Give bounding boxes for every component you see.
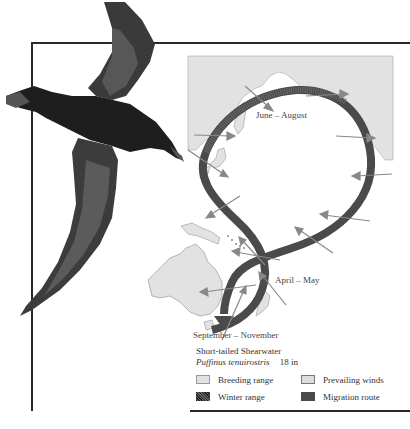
spring-label: April – May [275, 275, 320, 285]
legend-item-route: Migration route [301, 392, 406, 402]
legend-item-breeding: Breeding range [196, 375, 301, 385]
wind-arrow-swatch-icon [301, 375, 315, 384]
legend-item-winter: Winter range [196, 392, 301, 402]
migration-route-swatch-icon [301, 392, 315, 401]
shearwater-bird-illustration [6, 2, 184, 316]
legend-label: Prevailing winds [323, 375, 384, 385]
winter-range-swatch-icon [196, 392, 210, 401]
legend-label: Migration route [323, 392, 380, 402]
legend-label: Breeding range [218, 375, 273, 385]
breeding-range-swatch-icon [196, 375, 210, 384]
legend-scientific-name: Puffinus tenuirostris [196, 357, 269, 367]
summer-label: June – August [256, 110, 307, 120]
autumn-label: September – November [193, 330, 278, 340]
new-guinea-icon [181, 223, 220, 244]
legend: Short-tailed Shearwater Puffinus tenuiro… [196, 346, 406, 402]
legend-size: 18 in [280, 357, 298, 367]
legend-label: Winter range [218, 392, 265, 402]
migration-route-path [203, 90, 371, 330]
australia-icon [148, 244, 222, 316]
legend-item-winds: Prevailing winds [301, 375, 406, 385]
legend-common-name: Short-tailed Shearwater [196, 346, 406, 357]
